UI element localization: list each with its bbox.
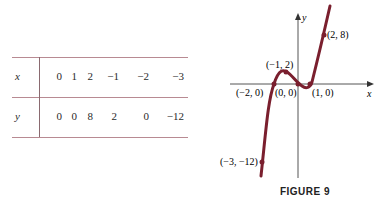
cubic-graph: y x (2, 8) (−1, 2) (−2, 0) (0, 0) (1, 0)…	[0, 0, 388, 204]
x-axis-label: x	[366, 88, 372, 99]
point-label: (−1, 2)	[266, 59, 293, 71]
point-label: (−3, −12)	[220, 156, 258, 168]
x-axis-arrow-icon	[367, 81, 374, 87]
y-axis-label: y	[301, 12, 307, 23]
figure-caption: FIGURE 9	[270, 186, 340, 197]
point-2-8	[322, 33, 327, 38]
point-neg3-neg12	[260, 160, 265, 165]
y-axis-arrow-icon	[295, 13, 301, 20]
point-0-0	[296, 82, 301, 87]
point-label: (1, 0)	[312, 87, 334, 99]
point-1-0	[308, 82, 313, 87]
point-label: (−2, 0)	[236, 87, 263, 99]
point-label: (0, 0)	[275, 87, 297, 99]
point-neg2-0	[272, 82, 277, 87]
point-label: (2, 8)	[327, 29, 349, 41]
point-neg1-2	[284, 70, 289, 75]
